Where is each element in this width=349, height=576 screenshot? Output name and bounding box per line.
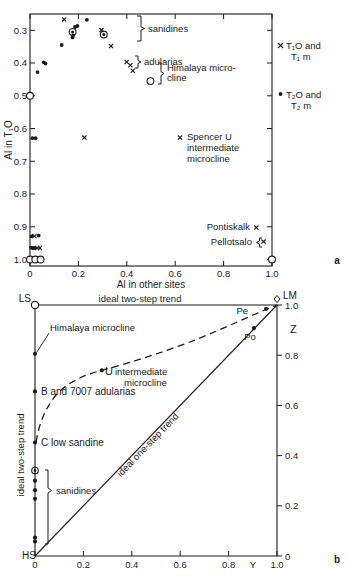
y-ticklabel: 0.9 [14, 221, 27, 232]
y-ticklabel: 0.5 [14, 90, 27, 101]
data-point-sanidine [33, 497, 37, 501]
y-ticklabel: 0.6 [14, 123, 27, 134]
x-ticklabel: 1.0 [265, 268, 278, 279]
annotation-label: microcline [124, 377, 167, 388]
data-point [261, 240, 265, 244]
legend-label: T₁O and [286, 40, 321, 51]
corner-label-hs: HS [22, 550, 36, 561]
x-ticklabel: 0.8 [217, 268, 230, 279]
data-point [60, 43, 64, 47]
annotation-label: cline [167, 72, 187, 83]
y-ticklabel: 1.0 [14, 254, 27, 265]
data-point [269, 256, 276, 263]
annotation-label: intermediate [187, 142, 239, 153]
right-ticklabel: 0.6 [285, 400, 298, 411]
data-point [254, 226, 258, 230]
data-point [37, 234, 41, 238]
data-point [27, 92, 34, 99]
data-point-sanidine [33, 539, 37, 543]
x-ticklabel: 0.6 [174, 559, 187, 570]
panel-b: 1.0 0.8 0.6 0.4 0.2 0 Z 0 0.2 0.4 0.6 0.… [15, 290, 340, 570]
annotation-label: Pellotsalo [211, 236, 252, 247]
x-ticklabel: 0.8 [222, 559, 235, 570]
data-point-b-adularias [33, 389, 37, 393]
panel-a-y-axis-title: Al in T₁O [3, 120, 14, 160]
annotation-label: intermediate [115, 366, 167, 377]
annotation-label: Himalaya microcline [50, 322, 135, 333]
label-po: Po [244, 331, 256, 342]
annotation-sanidines-b: sanidines [45, 470, 96, 544]
y-ticklabel: 0.7 [14, 156, 27, 167]
data-point [131, 69, 135, 73]
panel-b-x-ticks [35, 551, 277, 556]
annotation-c-low-sanidine: C low sandine [41, 437, 104, 448]
corner-label-ls: LS [19, 293, 32, 304]
panel-a-label: a [334, 255, 340, 266]
right-ticklabel: 0.4 [285, 450, 298, 461]
corner-label-lm: LM [283, 290, 297, 301]
data-point [109, 44, 113, 48]
data-point-sanidine [33, 536, 37, 540]
panel-a-x-ticklabels: 0 0.2 0.4 0.6 0.8 1.0 [27, 268, 278, 279]
panel-a-legend: T₁O and T₁ m T₂O and T₂ m [278, 40, 321, 111]
annotation-pellotsalo: Pellotsalo [211, 236, 262, 247]
annotation-himalaya-microcline: Himalaya micro- cline [158, 62, 236, 84]
data-point [147, 78, 154, 85]
open-diamond-icon [274, 296, 280, 303]
annotation-label: microcline [187, 153, 230, 164]
data-point [128, 63, 132, 67]
annotation-pontiskalk: Pontiskalk [207, 221, 251, 232]
data-point-u [100, 368, 104, 372]
legend-label: T₁ m [291, 51, 311, 62]
dot-marker-icon [279, 92, 283, 96]
figure-container: 0.3 0.4 0.5 0.6 0.7 0.8 0.9 1.0 0 0 [0, 0, 349, 576]
panel-a: 0.3 0.4 0.5 0.6 0.7 0.8 0.9 1.0 0 0 [3, 14, 340, 290]
x-ticklabel: 0.6 [169, 268, 182, 279]
x-marker-icon [278, 43, 283, 48]
legend-entry-t2: T₂O and T₂ m [279, 89, 322, 111]
data-point [71, 36, 75, 40]
data-point-sanidine [33, 479, 37, 483]
y-ticklabel: 0.8 [14, 188, 27, 199]
data-point [62, 17, 66, 21]
x-ticklabel: 1.0 [270, 559, 283, 570]
panel-b-right-axis-label: Z [290, 323, 297, 335]
data-point-po [252, 326, 256, 330]
data-point [82, 136, 86, 140]
panel-b-y-corner-marker: Y [250, 559, 257, 570]
data-point [100, 31, 107, 38]
annotation-label: U [105, 365, 113, 377]
data-point-sanidine [33, 488, 37, 492]
annotation-label: Spencer U [187, 131, 232, 142]
data-point [31, 136, 35, 140]
y-ticklabel: 0.4 [14, 57, 27, 68]
legend-label: T₂O and [286, 89, 321, 100]
legend-label: T₂ m [291, 100, 311, 111]
trend-label-left: ideal two-step trend [15, 414, 26, 497]
right-ticklabel: 1.0 [285, 300, 298, 311]
data-point [178, 136, 182, 140]
x-ticklabel: 0.4 [120, 268, 133, 279]
trend-label-top: ideal two-step trend [99, 293, 182, 304]
panel-a-y-ticklabels: 0.3 0.4 0.5 0.6 0.7 0.8 0.9 1.0 [14, 25, 27, 265]
data-point-c-low-sanidine [33, 440, 37, 444]
data-point [42, 60, 46, 64]
right-ticklabel: 0.8 [285, 350, 298, 361]
x-ticklabel: 0 [27, 268, 32, 279]
annotation-label: sanidines [56, 485, 96, 496]
legend-entry-t1: T₁O and T₁ m [278, 40, 321, 62]
data-point [36, 70, 40, 74]
data-point [37, 256, 44, 263]
x-ticklabel: 0.2 [72, 268, 85, 279]
data-point [38, 246, 42, 250]
label-pe: Pe [236, 305, 248, 316]
x-ticklabel: 0.2 [77, 559, 90, 570]
panel-b-right-ticklabels: 1.0 0.8 0.6 0.4 0.2 0 [285, 300, 298, 562]
right-ticklabel: 0 [285, 551, 290, 562]
panel-a-series-t2 [29, 18, 89, 250]
y-ticklabel: 0.3 [14, 25, 27, 36]
panel-b-x-ticklabels: 0 0.2 0.4 0.6 0.8 1.0 [32, 559, 283, 570]
panel-a-x-axis-title: Al in other sites [117, 279, 185, 290]
annotation-sanidines: sanidines [137, 16, 188, 41]
x-ticklabel: 0.4 [125, 559, 138, 570]
